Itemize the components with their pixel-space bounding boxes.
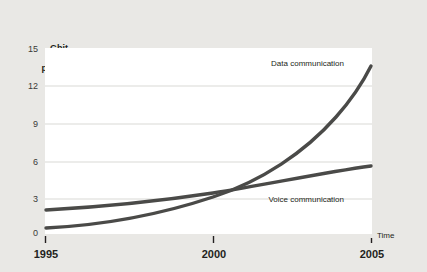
x-tick-label-2005: 2005	[343, 248, 401, 260]
chart-figure: Gbit per year 15 12 9 6 3 0 Data communi…	[0, 0, 427, 272]
series-annotation-data-communication: Data communication	[240, 60, 344, 69]
x-axis-title: Time	[377, 232, 394, 241]
x-tick-label-1995: 1995	[17, 248, 75, 260]
series-annotation-voice-communication: Voice communication	[240, 196, 344, 205]
x-axis-ticks	[46, 236, 372, 243]
plot-canvas	[0, 0, 427, 272]
x-tick-label-2000: 2000	[185, 248, 243, 260]
